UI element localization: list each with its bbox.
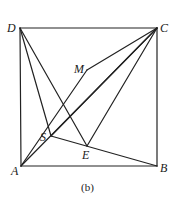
segment-ec (87, 28, 157, 146)
segment-da (20, 28, 21, 166)
point-label-e: E (81, 148, 90, 162)
segment-am (21, 70, 87, 166)
segment-de (20, 28, 87, 146)
segment-ds (20, 28, 51, 136)
point-label-a: A (10, 164, 19, 178)
point-label-c: C (160, 21, 169, 35)
geometry-diagram: D C M S E A B (b) (0, 0, 179, 199)
point-label-s: S (40, 130, 46, 144)
point-label-m: M (73, 62, 85, 76)
diagram-segments (20, 28, 157, 166)
segment-sc (51, 28, 157, 136)
segment-sb (51, 136, 157, 166)
point-label-b: B (160, 161, 168, 175)
figure-caption: (b) (81, 181, 94, 194)
point-label-d: D (6, 21, 16, 35)
